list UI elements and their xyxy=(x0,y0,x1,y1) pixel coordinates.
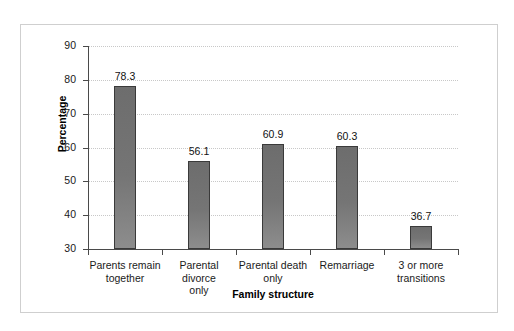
category-label-line: transitions xyxy=(384,272,458,285)
category-label-line: Parents remain xyxy=(88,259,162,272)
chart-figure: 30405060708090 78.356.160.960.336.7 Pare… xyxy=(0,0,514,331)
x-axis-title: Family structure xyxy=(88,288,458,300)
bar-value-label: 78.3 xyxy=(95,71,155,82)
bar-value-label: 60.3 xyxy=(317,131,377,142)
category-label-line: Parental divorce xyxy=(162,259,236,284)
x-tick-5 xyxy=(458,249,459,255)
category-label-line: only xyxy=(236,272,310,285)
y-tick-label-90: 90 xyxy=(50,40,76,50)
bar-value-label: 56.1 xyxy=(169,146,229,157)
y-axis-line xyxy=(88,46,89,249)
gridline-90 xyxy=(88,46,458,47)
bar xyxy=(114,86,136,249)
y-tick-label-30: 30 xyxy=(50,243,76,253)
bar xyxy=(262,144,284,249)
y-tick-label-50: 50 xyxy=(50,175,76,185)
category-label: Remarriage xyxy=(310,259,384,272)
x-tick-3 xyxy=(310,249,311,255)
category-label-line: Remarriage xyxy=(310,259,384,272)
bar-value-label: 60.9 xyxy=(243,129,303,140)
bar xyxy=(410,226,432,249)
category-label-line: together xyxy=(88,272,162,285)
x-tick-2 xyxy=(236,249,237,255)
y-axis-title: Percentage xyxy=(56,84,68,164)
gridline-70 xyxy=(88,114,458,115)
bar xyxy=(336,146,358,249)
bar-value-label: 36.7 xyxy=(391,211,451,222)
category-label-line: Parental death xyxy=(236,259,310,272)
y-tick-label-80: 80 xyxy=(50,74,76,84)
category-label: Parents remaintogether xyxy=(88,259,162,284)
x-tick-1 xyxy=(162,249,163,255)
x-axis-line xyxy=(88,249,458,250)
category-label-line: 3 or more xyxy=(384,259,458,272)
x-tick-0 xyxy=(88,249,89,255)
category-label: Parental deathonly xyxy=(236,259,310,284)
bar xyxy=(188,161,210,249)
category-label: 3 or moretransitions xyxy=(384,259,458,284)
y-tick-label-40: 40 xyxy=(50,209,76,219)
x-tick-4 xyxy=(384,249,385,255)
